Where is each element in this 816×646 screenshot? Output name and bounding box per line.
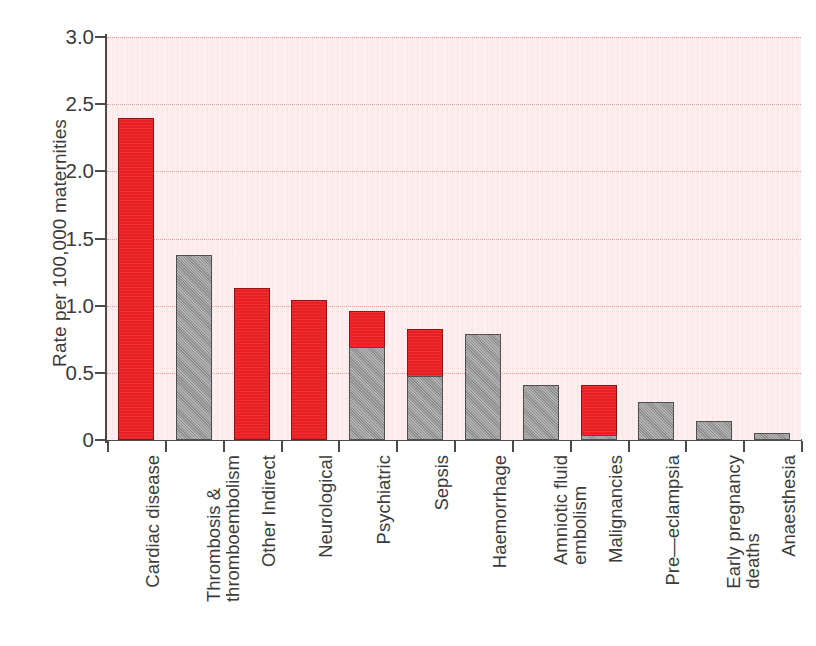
x-axis-tick-mark bbox=[454, 441, 456, 452]
y-axis-tick-mark bbox=[95, 372, 106, 374]
x-axis-tick-mark bbox=[223, 441, 225, 452]
x-axis-tick-mark bbox=[512, 441, 514, 452]
x-axis-tick-label-line: Haemorrhage bbox=[490, 455, 509, 568]
x-axis-tick-label: Neurological bbox=[316, 455, 335, 558]
y-axis-tick-mark bbox=[95, 170, 106, 172]
y-axis-tick-mark bbox=[95, 305, 106, 307]
x-axis-tick-mark bbox=[165, 441, 167, 452]
x-axis-tick-label-line: Early pregnancy bbox=[724, 455, 743, 589]
x-axis-tick-label-line: Amniotic fluid bbox=[551, 455, 570, 565]
x-axis-tick-label: Other Indirect bbox=[259, 455, 278, 567]
x-axis-tick-label: Anaesthesia bbox=[779, 455, 798, 557]
x-axis-tick-label: Psychiatric bbox=[374, 455, 393, 544]
x-axis-tick-label: Thrombosis &thromboembolism bbox=[204, 455, 242, 602]
x-axis-tick-label-line: Neurological bbox=[316, 455, 335, 558]
x-axis-tick-label-line: thromboembolism bbox=[223, 455, 242, 602]
x-axis-tick-label-line: Malignancies bbox=[606, 455, 625, 563]
x-axis-tick-label: Amniotic fluidembolism bbox=[551, 455, 589, 565]
x-axis-tick-label: Pre—eclampsia bbox=[663, 455, 682, 586]
x-axis-tick-mark bbox=[107, 441, 109, 452]
x-axis-tick-label-line: Pre—eclampsia bbox=[663, 455, 682, 586]
x-axis-tick-label: Cardiac disease bbox=[143, 455, 162, 588]
x-axis-tick-mark bbox=[801, 441, 803, 452]
x-axis-tick-mark bbox=[338, 441, 340, 452]
x-axis-tick-label-line: Thrombosis & bbox=[204, 455, 223, 602]
x-axis-tick-label: Sepsis bbox=[432, 455, 451, 511]
x-axis-tick-mark bbox=[628, 441, 630, 452]
x-axis-tick-labels: Cardiac diseaseThrombosis &thromboemboli… bbox=[0, 0, 816, 646]
x-axis-tick-mark bbox=[570, 441, 572, 452]
x-axis-tick-label-line: Sepsis bbox=[432, 455, 451, 511]
x-axis-tick-label: Haemorrhage bbox=[490, 455, 509, 568]
x-axis-tick-label-line: Psychiatric bbox=[374, 455, 393, 544]
x-axis-tick-label-line: deaths bbox=[743, 455, 762, 589]
y-axis-tick-mark bbox=[95, 103, 106, 105]
y-axis-tick-mark bbox=[95, 36, 106, 38]
x-axis-tick-mark bbox=[396, 441, 398, 452]
x-axis-tick-label-line: Anaesthesia bbox=[779, 455, 798, 557]
x-axis-tick-label: Early pregnancydeaths bbox=[724, 455, 762, 589]
y-axis-tick-mark bbox=[95, 238, 106, 240]
x-axis-tick-label-line: Cardiac disease bbox=[143, 455, 162, 588]
y-axis-tick-mark bbox=[95, 439, 106, 441]
x-axis-tick-mark bbox=[281, 441, 283, 452]
x-axis-tick-mark bbox=[743, 441, 745, 452]
x-axis-tick-label-line: Other Indirect bbox=[259, 455, 278, 567]
x-axis-tick-label: Malignancies bbox=[606, 455, 625, 563]
x-axis-tick-label-line: embolism bbox=[570, 455, 589, 565]
x-axis-tick-mark bbox=[685, 441, 687, 452]
bar-chart: Rate per 100,000 maternities 00.51.01.52… bbox=[0, 0, 816, 646]
